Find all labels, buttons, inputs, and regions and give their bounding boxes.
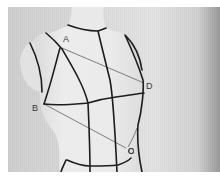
dress-form-photo: A B C D — [8, 7, 220, 172]
label-d: D — [146, 81, 153, 91]
dress-form-illustration: A B C D — [8, 7, 220, 172]
label-a: A — [63, 34, 69, 44]
form-neck — [68, 7, 106, 28]
label-b: B — [32, 103, 38, 113]
label-c: C — [128, 146, 135, 156]
